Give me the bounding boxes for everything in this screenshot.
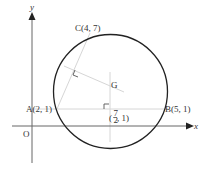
circumcircle-diagram: y x O A(2, 1) B(5, 1) C(4, 7) G ( 7 2 , …: [0, 0, 203, 170]
y-axis-label: y: [29, 2, 34, 12]
right-angle-marker-ab: [104, 104, 109, 109]
x-axis-label: x: [193, 121, 198, 131]
midpoint-ab-label: ( 7 2 , 1): [109, 108, 129, 125]
segment-ac: [57, 33, 90, 109]
origin-label: O: [23, 129, 30, 139]
x-axis-arrow-icon: [186, 123, 194, 130]
point-b-label: B(5, 1): [165, 104, 191, 114]
y-axis-arrow-icon: [29, 12, 36, 20]
point-a-label: A(2, 1): [26, 104, 52, 114]
midpoint-open: (: [109, 113, 112, 123]
point-c-label: C(4, 7): [75, 23, 101, 33]
midpoint-close: , 1): [117, 113, 129, 123]
point-g-label: G: [111, 80, 118, 90]
